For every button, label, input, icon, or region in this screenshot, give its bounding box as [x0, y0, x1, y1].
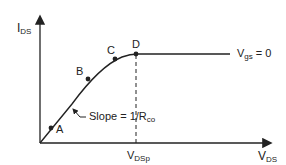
vdsp-label-sub: DSp: [134, 154, 150, 163]
iv-curve-diagram: [0, 0, 286, 165]
point-c-label: C: [107, 45, 115, 56]
x-axis-label: VDS: [258, 150, 277, 164]
point-d-label: D: [132, 39, 140, 50]
vdsp-label: VDSp: [127, 150, 150, 163]
point-d: [134, 52, 139, 57]
slope-label-sub: co: [147, 115, 155, 124]
point-b: [86, 77, 91, 82]
x-label-main: V: [258, 149, 266, 163]
y-axis-label: IDS: [17, 22, 31, 36]
x-label-sub: DS: [266, 155, 277, 164]
slope-leader-arrow: [73, 109, 86, 117]
point-a-label: A: [56, 124, 63, 135]
slope-label: Slope = 1/Rco: [89, 111, 155, 124]
curve-label-rest: = 0: [253, 47, 272, 59]
point-b-label: B: [76, 66, 83, 77]
iv-curve: [40, 54, 230, 143]
point-c: [113, 57, 118, 62]
point-a: [49, 126, 54, 131]
curve-label-sub: gs: [244, 52, 252, 61]
y-label-sub: DS: [20, 27, 31, 36]
slope-label-text: Slope = 1/R: [89, 110, 147, 122]
curve-label: Vgs = 0: [237, 48, 271, 61]
